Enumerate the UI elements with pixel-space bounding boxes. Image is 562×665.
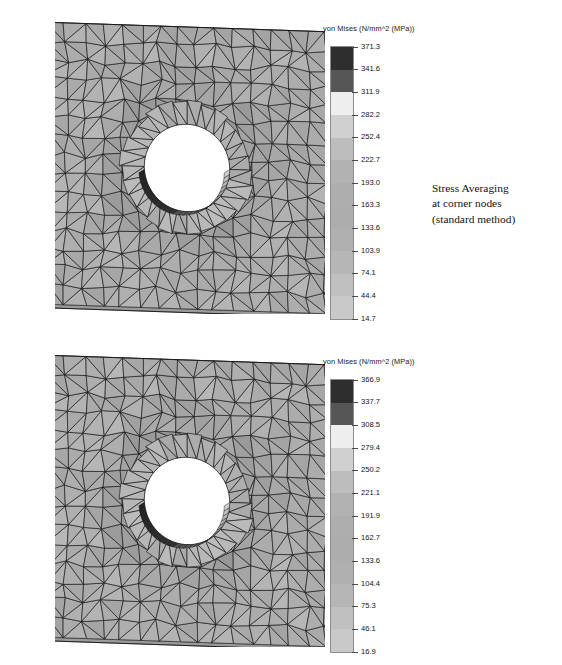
tick-mark <box>352 47 358 48</box>
tick-mark <box>352 69 358 70</box>
mesh-render-bottom <box>55 351 325 647</box>
legend-title: von Mises (N/mm^2 (MPa)) <box>323 24 415 33</box>
tick-mark <box>352 652 358 653</box>
result-panel-top: von Mises (N/mm^2 (MPa)) 371.3341.6311.9… <box>0 0 562 333</box>
tick-mark <box>352 273 358 274</box>
tick-mark <box>352 205 358 206</box>
tick-label: 16.9 <box>361 647 376 657</box>
tick-label: 133.6 <box>361 223 380 233</box>
tick-mark <box>352 629 358 630</box>
tick-label: 163.3 <box>361 200 380 210</box>
tick-mark <box>352 448 358 449</box>
tick-mark <box>352 92 358 93</box>
tick-mark <box>352 516 358 517</box>
tick-label: 104.4 <box>361 579 380 589</box>
colorbar-ticks: 371.3341.6311.9282.2252.4222.7193.0163.3… <box>331 47 441 319</box>
legend-title: von Mises (N/mm^2 (MPa)) <box>323 357 415 366</box>
tick-label: 341.6 <box>361 64 380 74</box>
tick-label: 14.7 <box>361 314 376 324</box>
tick-label: 75.3 <box>361 601 376 611</box>
tick-mark <box>352 115 358 116</box>
colorbar-ticks: 366.9337.7308.5279.4250.2221.1191.9162.7… <box>331 380 441 652</box>
tick-mark <box>352 584 358 585</box>
tick-mark <box>352 606 358 607</box>
caption-line: at corner nodes <box>432 196 557 211</box>
tick-label: 162.7 <box>361 533 380 543</box>
tick-mark <box>352 470 358 471</box>
mesh-render-top <box>55 18 325 314</box>
tick-label: 133.6 <box>361 556 380 566</box>
tick-mark <box>352 380 358 381</box>
tick-mark <box>352 183 358 184</box>
tick-label: 44.4 <box>361 291 376 301</box>
tick-mark <box>352 228 358 229</box>
tick-mark <box>352 137 358 138</box>
tick-mark <box>352 296 358 297</box>
tick-label: 221.1 <box>361 488 380 498</box>
fea-model-view-top[interactable] <box>55 18 325 314</box>
fea-model-view-bottom[interactable] <box>55 351 325 647</box>
tick-mark <box>352 425 358 426</box>
tick-label: 279.4 <box>361 443 380 453</box>
tick-mark <box>352 493 358 494</box>
tick-label: 366.9 <box>361 375 380 385</box>
caption-line: Stress Averaging <box>432 181 557 196</box>
tick-label: 250.2 <box>361 465 380 475</box>
tick-mark <box>352 251 358 252</box>
tick-mark <box>352 538 358 539</box>
tick-label: 337.7 <box>361 397 380 407</box>
tick-label: 252.4 <box>361 132 380 142</box>
caption-line: (standard method) <box>432 212 557 227</box>
tick-label: 193.0 <box>361 178 380 188</box>
result-panel-bottom: von Mises (N/mm^2 (MPa)) 366.9337.7308.5… <box>0 333 562 665</box>
tick-mark <box>352 319 358 320</box>
tick-label: 222.7 <box>361 155 380 165</box>
tick-label: 46.1 <box>361 624 376 634</box>
tick-mark <box>352 561 358 562</box>
legend-top: von Mises (N/mm^2 (MPa)) 371.3341.6311.9… <box>318 24 448 324</box>
panel-caption-top: Stress Averaging at corner nodes (standa… <box>432 181 557 227</box>
legend-bottom: von Mises (N/mm^2 (MPa)) 366.9337.7308.5… <box>318 357 448 657</box>
tick-label: 308.5 <box>361 420 380 430</box>
tick-mark <box>352 402 358 403</box>
tick-mark <box>352 160 358 161</box>
tick-label: 282.2 <box>361 110 380 120</box>
tick-label: 74.1 <box>361 268 376 278</box>
tick-label: 371.3 <box>361 42 380 52</box>
tick-label: 191.9 <box>361 511 380 521</box>
tick-label: 103.9 <box>361 246 380 256</box>
tick-label: 311.9 <box>361 87 379 97</box>
